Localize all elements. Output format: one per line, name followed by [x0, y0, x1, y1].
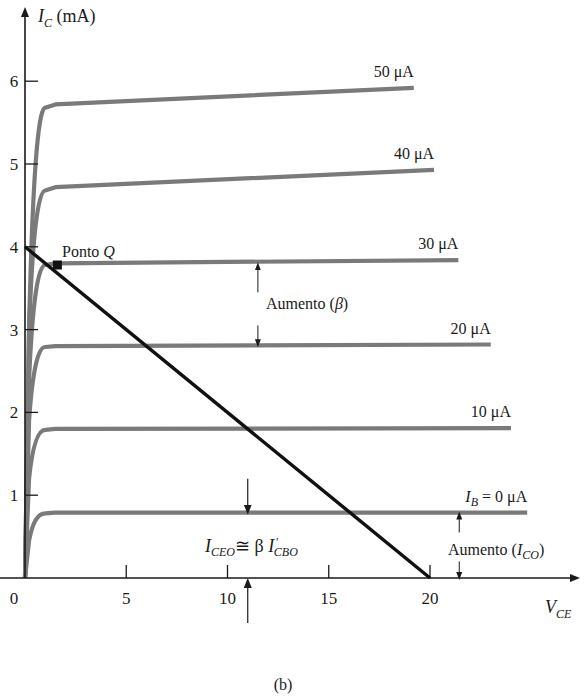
- y-tick-label-4: 4: [10, 238, 19, 257]
- x-tick-label-10: 10: [219, 589, 236, 608]
- x-axis-label: VCE: [545, 597, 572, 621]
- figure-caption: (b): [274, 676, 293, 694]
- ib-curve-50ua: [25, 88, 414, 578]
- y-axis-label: IC (mA): [37, 6, 96, 30]
- x-tick-label-15: 15: [320, 589, 337, 608]
- q-point-label: Ponto Q: [62, 243, 115, 260]
- annotations: [248, 266, 460, 623]
- x-tick-label-5: 5: [122, 589, 131, 608]
- transistor-output-characteristics-chart: 50 μA40 μA30 μA20 μA10 μAIB = 0 μA 12345…: [0, 0, 585, 696]
- y-tick-label-1: 1: [10, 486, 19, 505]
- ib-curve-30ua: [25, 260, 458, 578]
- iceo-formula-label: ICEO≅ β I′CBO: [204, 535, 298, 559]
- q-point-marker: [53, 261, 62, 270]
- x-tick-label-0: 0: [10, 589, 19, 608]
- ib-curve-label-10ua: 10 μA: [471, 403, 512, 421]
- y-tick-label-2: 2: [10, 403, 19, 422]
- ib-curve-label-40ua: 40 μA: [394, 145, 435, 163]
- load-line: [25, 247, 430, 578]
- beta-annotation-label: Aumento (β): [266, 295, 348, 313]
- ib-curve-label-20ua: 20 μA: [451, 320, 492, 338]
- ib-curve-40ua: [25, 170, 434, 578]
- y-tick-label-6: 6: [10, 72, 19, 91]
- load-line-group: [25, 247, 430, 578]
- y-tick-label-5: 5: [10, 155, 19, 174]
- ib-curve-label-30ua: 30 μA: [418, 235, 459, 253]
- ib-curves: 50 μA40 μA30 μA20 μA10 μAIB = 0 μA: [25, 63, 528, 578]
- y-tick-label-3: 3: [10, 321, 19, 340]
- ico-annotation-label: Aumento (ICO): [448, 541, 544, 562]
- ib-curve-label-0ua: IB = 0 μA: [464, 488, 527, 509]
- x-tick-label-20: 20: [422, 589, 439, 608]
- ib-curve-label-50ua: 50 μA: [374, 63, 415, 81]
